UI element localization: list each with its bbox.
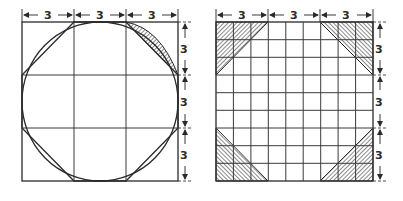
dim-label: 3 (290, 9, 298, 22)
shaded-corner-top-right (320, 22, 373, 75)
dim-label: 3 (180, 43, 188, 56)
right-panel: 3 3 3 (216, 9, 388, 181)
dim-label: 3 (44, 9, 52, 22)
dim-label: 3 (148, 9, 156, 22)
right-side-dimension: 3 3 3 (373, 22, 388, 181)
dim-label: 3 (375, 43, 383, 56)
dim-label: 3 (375, 149, 383, 162)
left-top-dimension: 3 3 3 (22, 9, 178, 22)
right-top-dimension: 3 3 3 (216, 9, 373, 22)
diagram-canvas: 3 3 3 3 3 3 (0, 0, 403, 201)
shaded-corner-bottom-right (320, 128, 373, 181)
left-side-dimension: 3 3 3 (178, 22, 192, 181)
dim-label: 3 (375, 96, 383, 109)
shaded-corner-top-left (216, 22, 268, 75)
dim-label: 3 (180, 96, 188, 109)
dim-label: 3 (96, 9, 104, 22)
dim-label: 3 (342, 9, 350, 22)
left-panel: 3 3 3 3 3 3 (22, 9, 192, 181)
dim-label: 3 (180, 149, 188, 162)
dim-label: 3 (238, 9, 246, 22)
shaded-corner-bottom-left (216, 128, 268, 181)
